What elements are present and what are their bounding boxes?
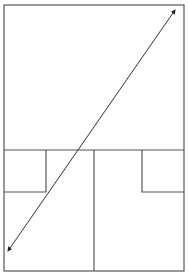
double-headed-diagonal-arrow bbox=[8, 10, 175, 251]
right-small-box bbox=[142, 150, 184, 192]
diagram-canvas bbox=[0, 0, 189, 278]
left-small-box bbox=[4, 150, 46, 192]
